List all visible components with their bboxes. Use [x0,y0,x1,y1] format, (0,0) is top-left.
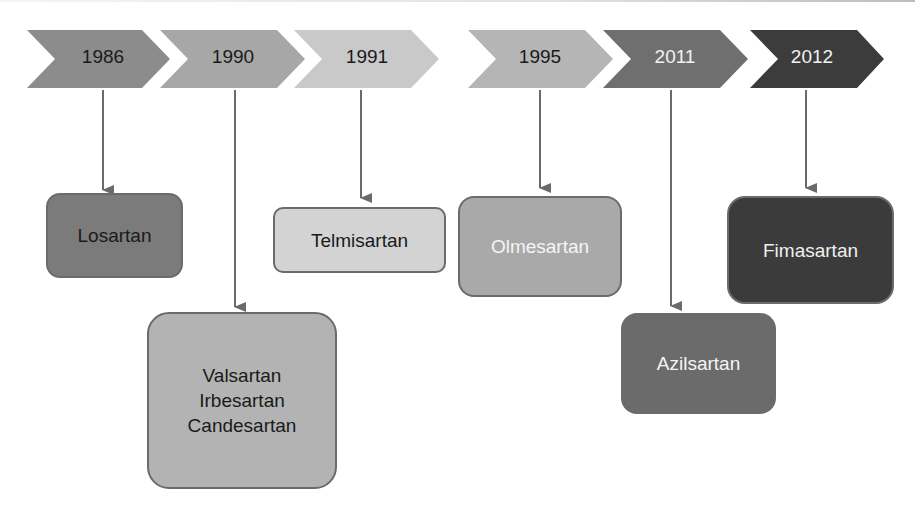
drug-name: Candesartan [188,413,297,438]
drug-name: Azilsartan [657,351,740,376]
drug-name: Olmesartan [491,234,589,259]
drug-box-losartan: Losartan [46,193,183,278]
drug-box-fimasartan: Fimasartan [727,196,894,304]
drug-box-azilsartan: Azilsartan [621,313,776,414]
year-label-2012: 2012 [762,46,862,68]
drug-name: Fimasartan [763,238,858,263]
drug-name: Losartan [78,223,152,248]
drug-name: Irbesartan [199,388,285,413]
drug-box-olmesartan: Olmesartan [458,196,622,297]
year-label-1986: 1986 [53,46,153,68]
drug-box-1990-group: Valsartan Irbesartan Candesartan [147,312,337,489]
drug-box-telmisartan: Telmisartan [273,207,446,273]
year-label-2011: 2011 [625,46,725,68]
drug-name: Telmisartan [311,228,408,253]
drug-name: Valsartan [203,363,282,388]
year-label-1991: 1991 [317,46,417,68]
year-label-1995: 1995 [490,46,590,68]
year-label-1990: 1990 [183,46,283,68]
